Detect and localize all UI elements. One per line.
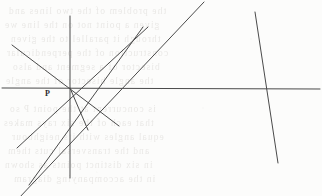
line-diagram-svg xyxy=(0,0,322,196)
line-line-q-upper-left-to-lower-right xyxy=(29,27,143,185)
line-line-q-upper-right-to-lower-left xyxy=(2,2,204,196)
line-diagonal-lower-left-to-upper-right xyxy=(17,27,148,148)
line-steep-line-right-crossing-transversal xyxy=(255,12,278,163)
point-label-p: P xyxy=(45,90,50,98)
geometry-figure: the problem of the two lines andgiven a … xyxy=(0,0,322,196)
line-diagonal-upper-left-to-lower-right xyxy=(12,45,119,126)
